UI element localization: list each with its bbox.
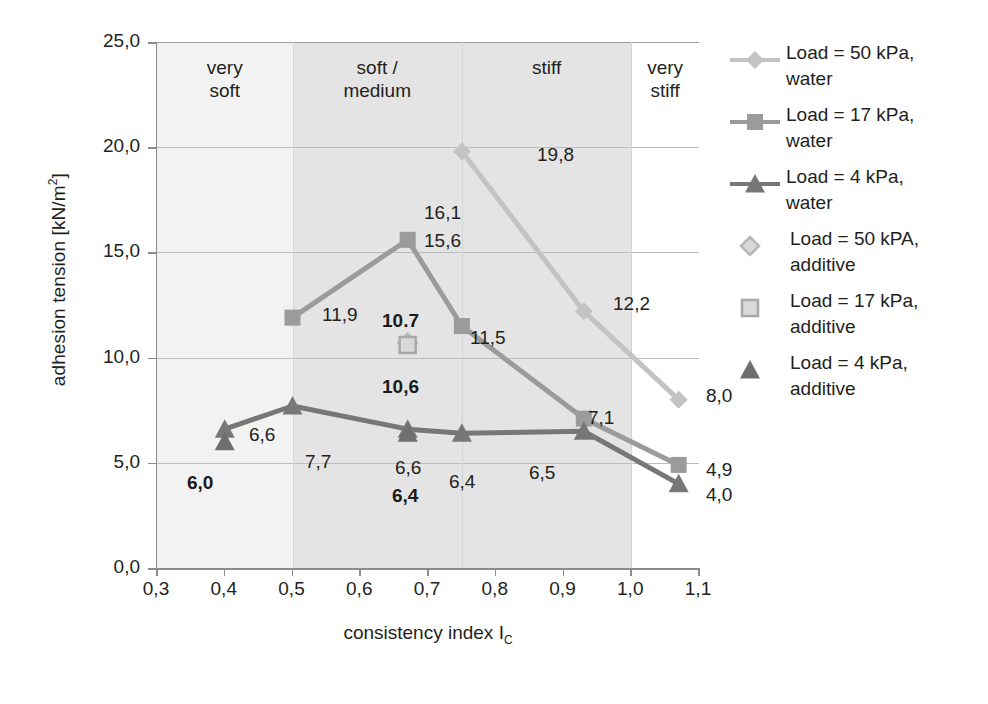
legend-marker-diamond-icon (728, 48, 782, 66)
x-tick-label: 1,0 (603, 578, 657, 600)
x-tick-mark (292, 568, 294, 576)
legend-item[interactable]: Load = 17 kPa,additive (728, 292, 978, 354)
legend-label-line1: Load = 50 kPa, (786, 40, 976, 66)
data-point-square (671, 457, 687, 473)
x-tick-label: 0,8 (468, 578, 522, 600)
legend-label: Load = 50 kPa,water (786, 40, 976, 92)
legend-marker-triangle-icon (728, 172, 782, 190)
chart-root: adhesion tension [kN/m2] consistency ind… (0, 0, 988, 704)
legend-label-line2: water (786, 128, 976, 154)
data-label: 12,2 (613, 293, 650, 315)
x-tick-label: 0,7 (400, 578, 454, 600)
legend-label-line1: Load = 4 kPa, (790, 350, 980, 376)
x-tick-mark (427, 568, 429, 576)
y-tick-label: 15,0 (66, 240, 140, 262)
y-tick-mark (148, 463, 156, 465)
y-tick-mark (148, 568, 156, 570)
data-point-square (285, 310, 301, 326)
data-label: 19,8 (537, 144, 574, 166)
x-tick-mark (495, 568, 497, 576)
data-label: 6,4 (449, 471, 475, 493)
data-label: 6,6 (249, 424, 275, 446)
legend-label-line1: Load = 17 kPa, (790, 288, 980, 314)
legend-label-line2: water (786, 66, 976, 92)
data-label: 4,9 (706, 459, 732, 481)
legend-symbol (728, 358, 782, 382)
data-label: 8,0 (706, 385, 732, 407)
data-point-square (400, 232, 416, 248)
legend-symbol (728, 234, 782, 258)
data-point-triangle-filled (740, 360, 760, 379)
legend-label-line1: Load = 50 kPA, (790, 226, 980, 252)
data-label: 7,7 (305, 451, 331, 473)
legend-item[interactable]: Load = 4 kPa,additive (728, 354, 978, 416)
data-point-square (454, 318, 470, 334)
legend-label-line1: Load = 17 kPa, (786, 102, 976, 128)
y-tick-label: 25,0 (66, 30, 140, 52)
legend-label: Load = 4 kPa,water (786, 164, 976, 216)
y-tick-mark (148, 358, 156, 360)
x-tick-mark (224, 568, 226, 576)
y-tick-label: 0,0 (66, 556, 140, 578)
y-tick-label: 10,0 (66, 346, 140, 368)
data-label: 6,5 (529, 462, 555, 484)
legend-label: Load = 4 kPa,additive (790, 350, 980, 402)
data-point-triangle (669, 474, 689, 493)
legend-item[interactable]: Load = 4 kPa,water (728, 168, 978, 230)
legend-marker-diamond-open-icon (728, 234, 782, 252)
legend-item[interactable]: Load = 50 kPA,additive (728, 230, 978, 292)
legend-marker-square-open-icon (728, 296, 782, 314)
legend-label: Load = 17 kPa,water (786, 102, 976, 154)
y-tick-mark (148, 42, 156, 44)
data-label: 6,4 (392, 485, 418, 507)
legend-symbol (728, 296, 782, 320)
data-label: 6,0 (187, 472, 213, 494)
x-tick-label: 0,6 (332, 578, 386, 600)
series-line (462, 151, 679, 399)
x-tick-label: 0,5 (265, 578, 319, 600)
legend-label-line2: additive (790, 252, 980, 278)
x-tick-mark (630, 568, 632, 576)
legend-symbol (728, 110, 782, 134)
data-point-diamond-open (741, 237, 759, 255)
x-axis-title: consistency index IC (156, 622, 700, 647)
data-label: 16,1 (424, 202, 461, 224)
legend-label-line1: Load = 4 kPa, (786, 164, 976, 190)
x-tick-mark (563, 568, 565, 576)
legend-label-line2: additive (790, 314, 980, 340)
y-tick-label: 20,0 (66, 135, 140, 157)
legend-marker-triangle-filled-icon (728, 358, 782, 376)
data-label: 10,6 (382, 376, 419, 398)
x-tick-label: 1,1 (671, 578, 725, 600)
data-label: 6,6 (395, 457, 421, 479)
x-tick-label: 0,4 (197, 578, 251, 600)
data-label: 10.7 (382, 310, 419, 332)
data-label: 11,5 (470, 327, 506, 349)
y-axis-title: adhesion tension [kN/m2] (46, 0, 69, 560)
legend-symbol (728, 48, 782, 72)
legend: Load = 50 kPa,waterLoad = 17 kPa,waterLo… (728, 44, 978, 416)
legend-label: Load = 50 kPA,additive (790, 226, 980, 278)
legend-symbol (728, 172, 782, 196)
x-tick-mark (698, 568, 700, 576)
legend-label: Load = 17 kPa,additive (790, 288, 980, 340)
data-point-square-open (400, 337, 416, 353)
y-tick-mark (148, 252, 156, 254)
data-point-square (747, 114, 763, 130)
data-label: 4,0 (706, 484, 732, 506)
legend-label-line2: water (786, 190, 976, 216)
legend-marker-square-icon (728, 110, 782, 128)
data-point-diamond (746, 51, 764, 69)
x-tick-label: 0,3 (129, 578, 183, 600)
data-point-square-open (742, 300, 758, 316)
data-label: 7,1 (588, 407, 614, 429)
legend-item[interactable]: Load = 50 kPa,water (728, 44, 978, 106)
y-tick-mark (148, 147, 156, 149)
x-tick-mark (359, 568, 361, 576)
x-tick-mark (156, 568, 158, 576)
data-label: 11,9 (322, 304, 358, 326)
data-label: 15,6 (424, 230, 461, 252)
x-tick-label: 0,9 (536, 578, 590, 600)
legend-item[interactable]: Load = 17 kPa,water (728, 106, 978, 168)
legend-label-line2: additive (790, 376, 980, 402)
